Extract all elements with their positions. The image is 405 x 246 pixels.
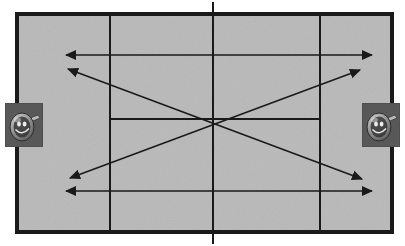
tennis-court-diagram: [0, 0, 405, 246]
court-drawing: [0, 0, 405, 246]
player-right: [362, 103, 400, 147]
court-surface-texture: [19, 16, 390, 230]
court-surface-group: [19, 16, 390, 230]
player-left: [5, 103, 43, 147]
tennis-player-icon: [362, 103, 400, 147]
tennis-player-icon: [5, 103, 43, 147]
